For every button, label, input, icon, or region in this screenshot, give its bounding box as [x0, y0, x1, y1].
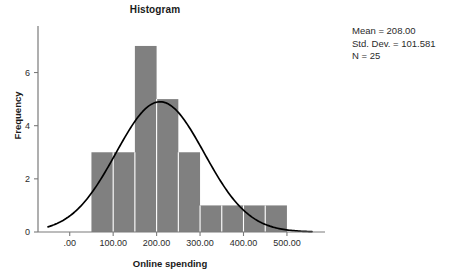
histogram-bar — [113, 152, 135, 232]
y-tick-label: 0 — [12, 227, 30, 237]
x-tick-label: 300.00 — [186, 238, 214, 248]
x-tick-label: .00 — [63, 238, 76, 248]
y-tick-label: 2 — [12, 174, 30, 184]
bars-group — [91, 46, 286, 232]
x-axis-ticks — [70, 232, 287, 236]
histogram-bar — [200, 205, 222, 232]
histogram-bar — [157, 99, 179, 232]
x-tick-label: 400.00 — [230, 238, 258, 248]
y-tick-label: 6 — [12, 68, 30, 78]
x-tick-label: 100.00 — [99, 238, 127, 248]
x-tick-label: 200.00 — [143, 238, 171, 248]
x-tick-label: 500.00 — [273, 238, 301, 248]
histogram-bar — [178, 152, 200, 232]
histogram-bar — [222, 205, 244, 232]
histogram-chart: Histogram Mean = 208.00 Std. Dev. = 101.… — [0, 0, 455, 280]
histogram-bar — [135, 46, 157, 232]
y-tick-label: 4 — [12, 121, 30, 131]
